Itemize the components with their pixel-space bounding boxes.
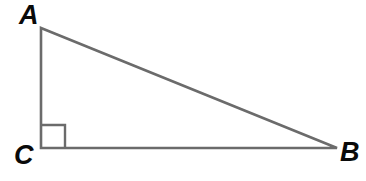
vertex-label-a: A xyxy=(19,2,39,29)
geometry-figure: A C B xyxy=(0,0,366,181)
right-angle-marker-icon xyxy=(41,125,65,148)
vertex-label-b: B xyxy=(340,139,360,166)
right-triangle-svg xyxy=(0,0,366,181)
triangle-outline xyxy=(41,28,337,148)
vertex-label-c: C xyxy=(14,142,34,169)
